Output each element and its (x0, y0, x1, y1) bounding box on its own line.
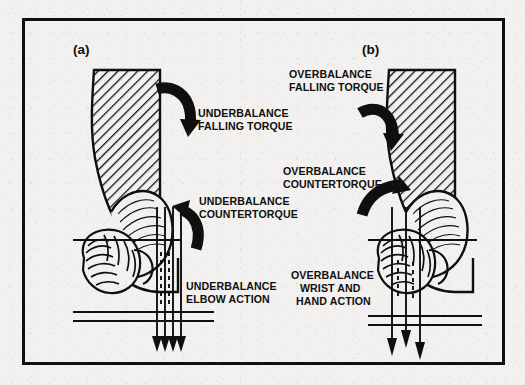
panel-b-callout-wrist-hand-action-line1: OVERBALANCE (291, 269, 374, 281)
panel-b-callout-countertorque-line1: OVERBALANCE (283, 165, 366, 177)
panel-a-callout-countertorque-line2: COUNTERTORQUE (199, 208, 298, 220)
panel-b-tag: (b) (362, 42, 379, 57)
panel-b-callout-countertorque-line2: COUNTERTORQUE (283, 178, 382, 190)
panel-a-callout-falling-torque-line2: FALLING TORQUE (198, 120, 293, 132)
panel-b-callout-wrist-hand-action-line3: HAND ACTION (296, 295, 371, 307)
panel-a-tag: (a) (73, 42, 90, 57)
panel-a-callout-countertorque: UNDERBALANCE COUNTERTORQUE (199, 195, 298, 220)
panel-a-callout-falling-torque-line1: UNDERBALANCE (198, 107, 289, 119)
panel-a-callout-falling-torque: UNDERBALANCE FALLING TORQUE (198, 107, 293, 132)
panel-b-callout-falling-torque: OVERBALANCE FALLING TORQUE (289, 68, 384, 93)
figure-illustration: (a) (b) UNDERBALANCE FALLING TORQUE UNDE… (0, 0, 525, 385)
panel-a-callout-elbow-action-line2: ELBOW ACTION (186, 293, 270, 305)
panel-b-callout-falling-torque-line1: OVERBALANCE (289, 68, 372, 80)
panel-b-callout-wrist-hand-action-line2: WRIST AND (300, 282, 361, 294)
panel-b-callout-falling-torque-line2: FALLING TORQUE (289, 81, 384, 93)
panel-a-callout-elbow-action-line1: UNDERBALANCE (186, 280, 277, 292)
panel-a-callout-countertorque-line1: UNDERBALANCE (199, 195, 290, 207)
figure-root: (a) (b) UNDERBALANCE FALLING TORQUE UNDE… (0, 0, 525, 385)
panel-a-callout-elbow-action: UNDERBALANCE ELBOW ACTION (186, 280, 277, 305)
